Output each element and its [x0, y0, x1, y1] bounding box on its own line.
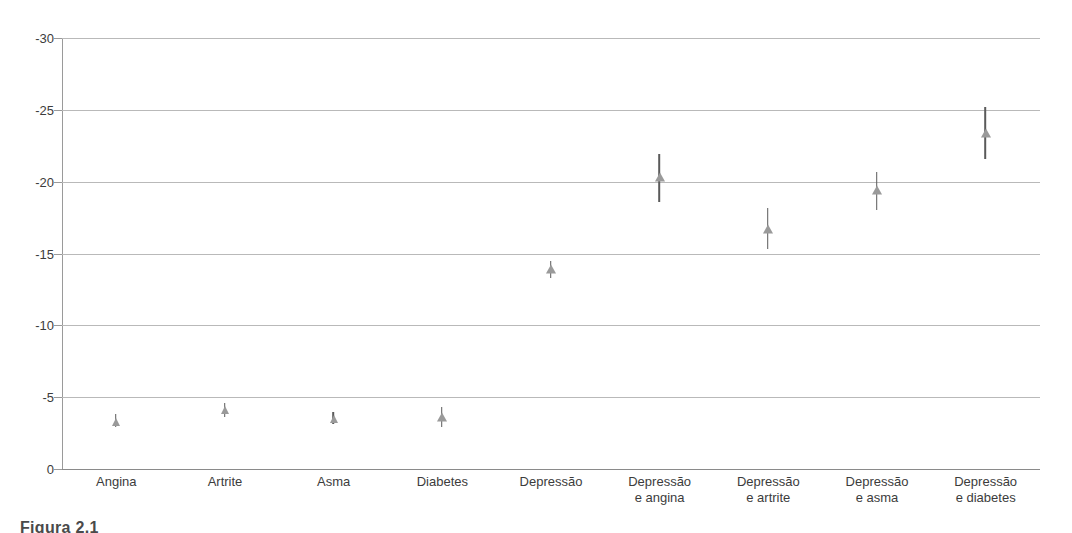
marker-triangle — [655, 173, 665, 182]
x-tick-label-line2: e asma — [846, 490, 909, 506]
y-axis-tick-labels: -30-25-20-15-10-50 — [0, 0, 54, 533]
x-tick-label-line1: Depressão — [846, 474, 909, 489]
x-tick-label-line1: Depressão — [520, 474, 583, 489]
marker-triangle — [872, 186, 882, 195]
y-tick-label--30: -30 — [0, 31, 54, 46]
x-tick-label: Depressãoe diabetes — [954, 474, 1017, 506]
x-tick-label: Depressãoe artrite — [737, 474, 800, 506]
x-tick-label-line1: Angina — [96, 474, 136, 489]
y-tick-label--20: -20 — [0, 174, 54, 189]
x-tick-label-line1: Asma — [317, 474, 350, 489]
y-tick-mark--5 — [54, 397, 62, 398]
marker-triangle — [221, 406, 229, 414]
x-tick-label-line1: Depressão — [954, 474, 1017, 489]
y-tick-label--5: -5 — [0, 390, 54, 405]
x-tick-label-line2: e artrite — [737, 490, 800, 506]
y-tick-label--10: -10 — [0, 318, 54, 333]
gridline--10 — [62, 325, 1040, 326]
marker-triangle — [763, 225, 773, 234]
x-tick-label: Depressãoe angina — [628, 474, 691, 506]
x-tick-label-line1: Depressão — [737, 474, 800, 489]
y-tick-mark--30 — [54, 38, 62, 39]
x-tick-label: Artrite — [208, 474, 243, 490]
x-tick-label-line2: e diabetes — [954, 490, 1017, 506]
plot-area — [62, 38, 1040, 469]
x-axis-tick-labels: AnginaArtriteAsmaDiabetesDepressãoDepres… — [0, 474, 1072, 520]
x-tick-label-line1: Artrite — [208, 474, 243, 489]
x-tick-label-line1: Depressão — [628, 474, 691, 489]
marker-triangle — [330, 415, 338, 423]
figure-container: -30-25-20-15-10-50 AnginaArtriteAsmaDiab… — [0, 0, 1072, 533]
x-tick-label: Depressão — [520, 474, 583, 490]
marker-triangle — [437, 413, 447, 422]
x-tick-label: Angina — [96, 474, 136, 490]
y-tick-mark--15 — [54, 254, 62, 255]
y-tick-label--25: -25 — [0, 102, 54, 117]
figure-caption: Figura 2.1 — [20, 519, 99, 533]
marker-triangle — [546, 265, 556, 274]
gridline--25 — [62, 110, 1040, 111]
marker-triangle — [981, 128, 991, 137]
marker-triangle — [112, 418, 120, 426]
x-tick-label: Diabetes — [417, 474, 468, 490]
gridline--30 — [62, 38, 1040, 39]
gridline-0 — [62, 469, 1040, 470]
x-tick-label-line2: e angina — [628, 490, 691, 506]
y-tick-mark--20 — [54, 182, 62, 183]
x-tick-label-line1: Diabetes — [417, 474, 468, 489]
gridline--15 — [62, 254, 1040, 255]
y-tick-mark--25 — [54, 110, 62, 111]
y-tick-mark-0 — [54, 469, 62, 470]
x-tick-label: Depressãoe asma — [846, 474, 909, 506]
gridline--20 — [62, 182, 1040, 183]
y-tick-mark--10 — [54, 325, 62, 326]
x-tick-label: Asma — [317, 474, 350, 490]
y-tick-label--15: -15 — [0, 246, 54, 261]
gridline--5 — [62, 397, 1040, 398]
